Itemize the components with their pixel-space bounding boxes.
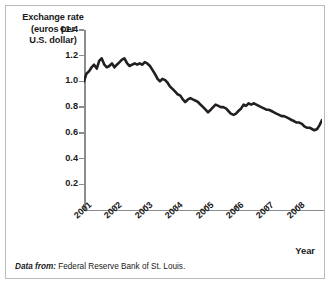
figure-container: Exchange rate (euros per U.S. dollar) €1…	[0, 0, 331, 285]
data-line-series	[84, 30, 322, 210]
exchange-rate-line	[84, 58, 322, 130]
source-text: Federal Reserve Bank of St. Louis.	[58, 262, 185, 271]
y-axis-title-line-3: U.S. dollar)	[14, 35, 92, 47]
y-axis-title-line-1: Exchange rate	[14, 12, 92, 24]
y-tick-label: €1.4	[40, 24, 78, 34]
x-axis-title: Year	[295, 245, 315, 256]
y-tick-label: 0.2	[40, 178, 78, 188]
source-note: Data from: Federal Reserve Bank of St. L…	[15, 262, 185, 271]
plot-area	[84, 30, 322, 210]
y-tick-label: 0.6	[40, 127, 78, 137]
y-tick-label: 0.8	[40, 101, 78, 111]
source-prefix: Data from:	[15, 262, 56, 271]
y-tick-label: 0.4	[40, 153, 78, 163]
y-tick-label: 1.0	[40, 75, 78, 85]
y-tick-label: 1.2	[40, 50, 78, 60]
